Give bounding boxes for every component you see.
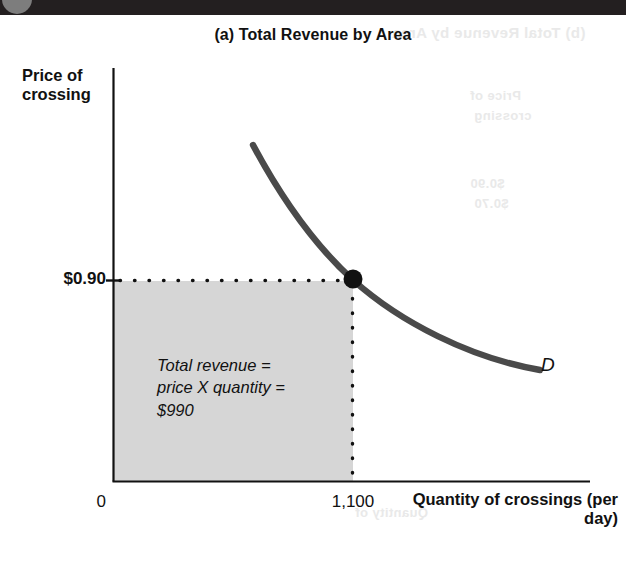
total-revenue-annotation-line-1: Total revenue = — [157, 354, 372, 376]
x-axis-origin-label: 0 — [72, 492, 106, 512]
total-revenue-annotation: Total revenue = price X quantity = $990 — [157, 354, 372, 421]
figure-container: (b) Total Revenue by Area Price of cross… — [0, 0, 626, 564]
equilibrium-point — [344, 270, 363, 289]
x-axis-title: Quantity of crossings (per day) — [390, 490, 618, 529]
x-axis-tick-label-quantity: 1,100 — [303, 492, 403, 512]
demand-curve-label: D — [541, 354, 555, 376]
y-axis-tick-label-price: $0.90 — [18, 269, 106, 289]
y-axis-title: Price of crossing — [22, 66, 108, 105]
total-revenue-annotation-line-3: $990 — [157, 399, 372, 421]
total-revenue-annotation-line-2: price X quantity = — [157, 376, 372, 398]
